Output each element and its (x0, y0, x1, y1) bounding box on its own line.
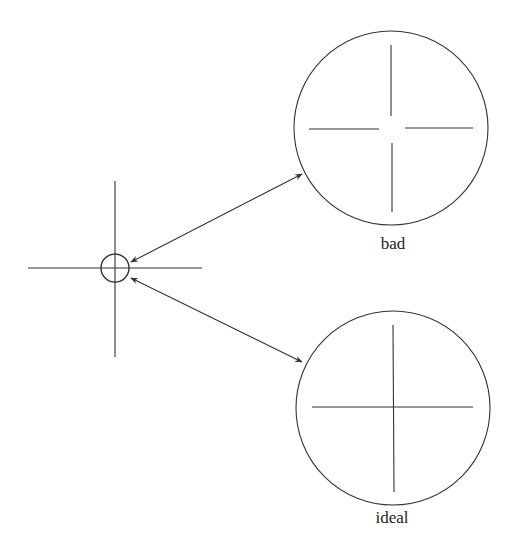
diagram-canvas (0, 0, 509, 555)
arrow-to-ideal-view (131, 278, 302, 362)
ideal-crosshair-vertical (393, 325, 394, 492)
ideal-label: ideal (375, 508, 408, 528)
bad-label: bad (381, 234, 406, 254)
arrow-to-bad-view (131, 174, 302, 262)
bad-view (294, 31, 488, 225)
target-crosshair (28, 181, 202, 357)
ideal-view (296, 311, 490, 505)
